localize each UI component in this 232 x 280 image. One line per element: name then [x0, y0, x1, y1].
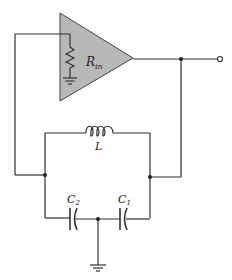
inductor-coil: [86, 126, 113, 136]
feedback-wire-output: [150, 59, 181, 177]
inductor-label: L: [94, 140, 102, 153]
capacitor-c1-icon: [120, 208, 127, 230]
tank-left-node: [43, 173, 47, 177]
output-terminal: [218, 57, 223, 62]
tank-right-node: [148, 175, 152, 179]
c1-label: C1: [118, 193, 131, 207]
ground-icon: [90, 265, 106, 271]
cap-mid-node: [96, 217, 100, 221]
circuit-diagram: Rin L C2 C1: [0, 0, 232, 280]
circuit-schematic: Rin L C2 C1: [0, 0, 232, 280]
c2-label: C2: [67, 193, 80, 207]
output-node: [179, 57, 183, 61]
